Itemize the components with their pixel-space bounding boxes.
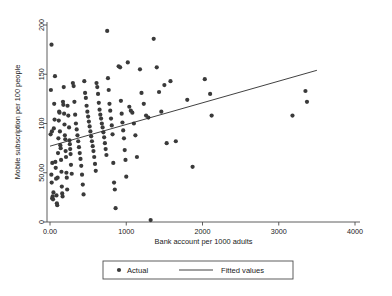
- data-point: [63, 133, 67, 137]
- data-point: [110, 123, 114, 127]
- data-point: [50, 181, 54, 185]
- data-point: [87, 119, 91, 123]
- data-point: [305, 100, 309, 104]
- data-point: [68, 142, 72, 146]
- data-point: [88, 129, 92, 133]
- data-point: [104, 153, 108, 157]
- data-point: [103, 141, 107, 145]
- data-point: [127, 105, 131, 109]
- data-point: [75, 133, 79, 137]
- data-point: [65, 187, 69, 191]
- scatter-points-group: [49, 29, 310, 222]
- data-point: [62, 112, 66, 116]
- data-point: [56, 176, 60, 180]
- data-point: [49, 43, 53, 47]
- data-point: [57, 111, 61, 115]
- x-tick-label: 2000: [195, 227, 211, 236]
- data-point: [105, 29, 109, 33]
- data-point: [101, 125, 105, 129]
- data-point: [106, 76, 110, 80]
- data-point: [113, 206, 117, 210]
- data-point: [99, 116, 103, 120]
- data-point: [77, 145, 81, 149]
- data-point: [185, 98, 189, 102]
- data-point: [81, 182, 85, 186]
- data-point: [51, 190, 55, 194]
- data-point: [126, 60, 130, 64]
- data-point: [72, 100, 76, 104]
- data-point: [159, 110, 163, 114]
- data-point: [149, 218, 153, 222]
- data-point: [112, 181, 116, 185]
- data-point: [78, 151, 82, 155]
- x-tick-label: 3000: [271, 227, 287, 236]
- data-point: [210, 114, 214, 118]
- chart-page: 050.001001502000.001000200030004000Bank …: [0, 0, 392, 296]
- data-point: [109, 116, 113, 120]
- data-point: [93, 162, 97, 166]
- y-tick-label: 150: [37, 68, 46, 80]
- x-tick-label: 0.00: [43, 227, 57, 236]
- data-point: [81, 192, 85, 196]
- data-point: [83, 91, 87, 95]
- data-point: [157, 90, 161, 94]
- y-tick-label: 100: [37, 118, 46, 130]
- data-point: [66, 114, 70, 118]
- data-point: [68, 152, 72, 156]
- legend-label-actual: Actual: [127, 266, 148, 275]
- data-point: [78, 157, 82, 161]
- data-point: [52, 102, 56, 106]
- data-point: [88, 124, 92, 128]
- data-point: [51, 197, 55, 201]
- data-point: [92, 155, 96, 159]
- data-point: [290, 114, 294, 118]
- data-point: [96, 92, 100, 96]
- data-point: [60, 194, 64, 198]
- data-point: [84, 96, 88, 100]
- data-point: [120, 112, 124, 116]
- data-point: [75, 127, 79, 131]
- data-point: [97, 108, 101, 112]
- data-point: [67, 125, 71, 129]
- data-point: [155, 65, 159, 69]
- data-point: [54, 166, 58, 170]
- data-point: [64, 155, 68, 159]
- data-point: [49, 88, 53, 92]
- data-point: [124, 175, 128, 179]
- legend-label-fitted: Fitted values: [221, 266, 264, 275]
- data-point: [76, 139, 80, 143]
- data-point: [130, 111, 134, 115]
- data-point: [142, 102, 146, 106]
- data-point: [119, 99, 123, 103]
- data-point: [62, 122, 66, 126]
- data-point: [73, 113, 77, 117]
- data-point: [94, 169, 98, 173]
- data-point: [79, 164, 83, 168]
- data-point: [85, 110, 89, 114]
- data-point: [110, 132, 114, 136]
- data-point: [54, 193, 58, 197]
- data-point: [65, 176, 69, 180]
- data-point: [53, 160, 57, 164]
- data-point: [53, 74, 57, 78]
- data-point: [55, 203, 59, 207]
- data-point: [91, 149, 95, 153]
- data-point: [56, 151, 60, 155]
- data-point: [82, 79, 86, 83]
- data-point: [139, 91, 143, 95]
- y-tick-label: 50.00: [37, 164, 46, 182]
- data-point: [68, 147, 72, 151]
- data-point: [152, 37, 156, 41]
- data-point: [52, 126, 56, 130]
- data-point: [138, 67, 142, 71]
- data-point: [102, 135, 106, 139]
- data-point: [121, 128, 125, 132]
- data-point: [133, 133, 137, 137]
- data-point: [60, 184, 64, 188]
- data-point: [165, 141, 169, 145]
- data-point: [97, 101, 101, 105]
- data-point: [203, 77, 207, 81]
- y-tick-label: 0: [37, 220, 46, 224]
- data-point: [94, 81, 98, 85]
- data-point: [120, 120, 124, 124]
